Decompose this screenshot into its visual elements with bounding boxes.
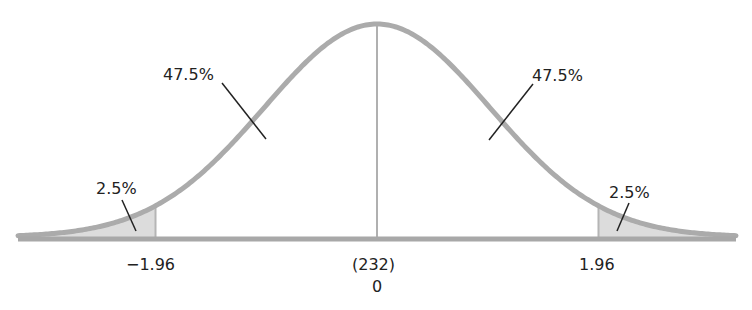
left-center-percent-label: 47.5% <box>163 67 214 83</box>
left-tail-percent-label: 2.5% <box>96 181 137 197</box>
right-tail-percent-label: 2.5% <box>609 185 650 201</box>
tick-label-neg-1-96: −1.96 <box>126 257 175 273</box>
right-center-percent-label: 47.5% <box>532 68 583 84</box>
center-z-label: 0 <box>372 279 382 295</box>
tick-label-pos-1-96: 1.96 <box>579 257 615 273</box>
center-raw-value-label: (232) <box>352 257 395 273</box>
